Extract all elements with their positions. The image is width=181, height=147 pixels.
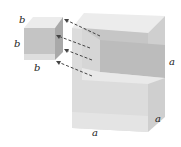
large-cube-label-bottom: a [92,127,98,138]
small-cube-label-top: b [19,14,25,25]
cube-diagram: b b b a a a [0,0,181,147]
arrow-head-icon [56,61,61,65]
small-cube-label-bottom: b [34,62,40,73]
large-cube-label-depth: a [155,113,161,124]
cutout-back [100,40,165,78]
large-cube [72,13,165,132]
small-cube-label-left: b [14,38,20,49]
small-cube [24,17,63,60]
large-cube-label-right: a [169,56,175,67]
small-cube-bottom-strip [24,54,55,60]
